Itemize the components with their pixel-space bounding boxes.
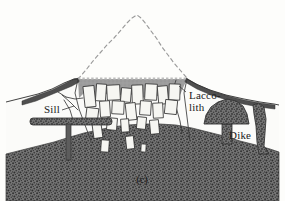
label-dike: Dike <box>229 129 251 141</box>
figure-caption: (c) <box>136 174 148 186</box>
geology-cross-section-diagram: Sill Lacco- lith Dike (c) <box>0 0 285 201</box>
label-sill: Sill <box>44 103 60 115</box>
label-laccolith-line2: lith <box>189 101 205 113</box>
figure-container: Sill Lacco- lith Dike (c) <box>0 0 285 201</box>
label-laccolith-line1: Lacco- <box>189 89 221 101</box>
